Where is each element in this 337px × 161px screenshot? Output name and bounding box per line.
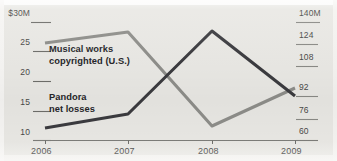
series-annotation-musical-works-line2: copyrighted (U.S.) bbox=[49, 56, 130, 68]
left-axis-tick-label-10: 10 bbox=[4, 128, 30, 137]
right-axis-tick-label-76: 76 bbox=[299, 106, 309, 115]
x-axis-tick-label-2007: 2007 bbox=[114, 147, 135, 156]
plot-area bbox=[0, 0, 337, 161]
x-axis-tick-label-2006: 2006 bbox=[31, 147, 52, 156]
right-axis-tick-label-140: 140M bbox=[299, 9, 321, 18]
right-axis-tick-label-124: 124 bbox=[299, 31, 313, 40]
right-axis-tick-label-92: 92 bbox=[299, 83, 309, 92]
series-annotation-pandora-line1: Pandora bbox=[49, 92, 95, 104]
right-axis-tick-label-60: 60 bbox=[299, 127, 309, 136]
series-annotation-musical-works-line1: Musical works bbox=[49, 44, 130, 56]
left-axis-ticks bbox=[31, 23, 51, 141]
chart-container: $30M 25 20 15 10 140M 124 108 92 76 60 2… bbox=[0, 0, 337, 161]
left-axis-tick-label-15: 15 bbox=[4, 98, 30, 107]
x-axis-tick-label-2008: 2008 bbox=[198, 147, 219, 156]
right-axis-tick-label-108: 108 bbox=[299, 53, 313, 62]
series-annotation-musical-works: Musical works copyrighted (U.S.) bbox=[49, 44, 130, 67]
left-axis-tick-label-30: $30M bbox=[4, 9, 30, 18]
left-axis-tick-label-20: 20 bbox=[4, 68, 30, 77]
series-annotation-pandora-line2: net losses bbox=[49, 104, 95, 116]
left-axis-tick-label-25: 25 bbox=[4, 38, 30, 47]
series-annotation-pandora-net-losses: Pandora net losses bbox=[49, 92, 95, 115]
x-axis-tick-label-2009: 2009 bbox=[281, 147, 302, 156]
